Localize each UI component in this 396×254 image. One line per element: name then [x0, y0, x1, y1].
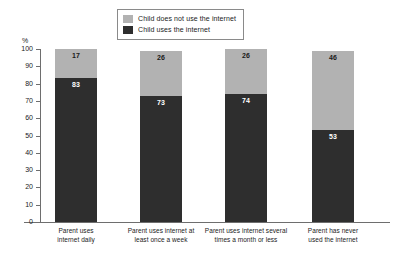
y-tick-label-70: 70 — [25, 97, 33, 105]
bar-value-label: 26 — [242, 49, 250, 60]
category-label: Parent has neverused the internet — [290, 226, 376, 244]
bar-value-label: 17 — [72, 49, 80, 60]
legend-swatch-light — [123, 15, 133, 23]
category-label-line: times a month or less — [190, 235, 302, 244]
x-axis-line — [24, 222, 390, 223]
legend-swatch-dark — [123, 26, 133, 34]
bar-value-label: 74 — [242, 94, 250, 105]
y-tick-label-60: 60 — [25, 114, 33, 122]
y-tick-label-80: 80 — [25, 80, 33, 88]
bar-segment-child-uses[interactable]: 53 — [312, 130, 354, 222]
bar-value-label: 53 — [329, 130, 337, 141]
category-label-line: Parent uses — [38, 226, 114, 235]
y-tick-label-90: 90 — [25, 62, 33, 70]
bar-segment-child-uses[interactable]: 73 — [140, 96, 182, 222]
chart-legend: Child does not use the internet Child us… — [117, 9, 244, 40]
legend-item-child-does-not-use: Child does not use the internet — [123, 14, 236, 24]
legend-item-child-uses: Child uses the internet — [123, 25, 236, 35]
bar-group[interactable]: 7426 — [225, 49, 267, 222]
category-label-line: internet daily — [38, 235, 114, 244]
bar-segment-child-does-not-use[interactable]: 17 — [55, 49, 97, 78]
legend-label-child-uses: Child uses the internet — [138, 26, 210, 34]
bar-segment-child-uses[interactable]: 74 — [225, 94, 267, 222]
bar-group[interactable]: 7326 — [140, 49, 182, 222]
bar-value-label: 83 — [72, 78, 80, 89]
y-tick-label-40: 40 — [25, 149, 33, 157]
bar-segment-child-does-not-use[interactable]: 46 — [312, 51, 354, 131]
y-tick-label-100: 100 — [21, 45, 33, 53]
category-label: Parent usesinternet daily — [38, 226, 114, 244]
bar-value-label: 46 — [329, 51, 337, 62]
stacked-bar-chart: Child does not use the internet Child us… — [0, 0, 396, 254]
bar-segment-child-does-not-use[interactable]: 26 — [225, 49, 267, 94]
bar-group[interactable]: 5346 — [312, 49, 354, 222]
y-axis-unit-label: % — [22, 37, 28, 45]
bar-group[interactable]: 8317 — [55, 49, 97, 222]
y-tick-label-0: 0 — [29, 218, 33, 226]
y-tick-label-20: 20 — [25, 183, 33, 191]
bar-value-label: 26 — [157, 51, 165, 62]
y-tick-label-30: 30 — [25, 166, 33, 174]
category-label-line: Parent has never — [290, 226, 376, 235]
bar-segment-child-does-not-use[interactable]: 26 — [140, 51, 182, 96]
y-tick-label-50: 50 — [25, 132, 33, 140]
category-label-line: used the internet — [290, 235, 376, 244]
bar-value-label: 73 — [157, 96, 165, 107]
y-tick-0: 0 — [36, 222, 41, 223]
y-tick-label-10: 10 — [25, 201, 33, 209]
category-label: Parent uses internet severaltimes a mont… — [190, 226, 302, 244]
legend-label-child-does-not-use: Child does not use the internet — [138, 15, 236, 23]
plot-area: 8317732674265346 — [41, 49, 390, 222]
category-label-line: Parent uses internet several — [190, 226, 302, 235]
bar-segment-child-uses[interactable]: 83 — [55, 78, 97, 222]
